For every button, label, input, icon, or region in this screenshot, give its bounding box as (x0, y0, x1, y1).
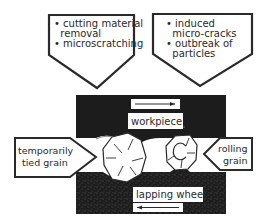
callout-rolling-grain: rolling grain (204, 138, 252, 170)
lapping-wheel-label: lapping wheel (136, 189, 206, 200)
lapping-wheel: lapping wheel (76, 168, 226, 215)
lapping-mechanism-diagram: • cutting material removal • microscratc… (0, 0, 268, 223)
callout-cutting-mechanisms: • cutting material removal • microscratc… (49, 15, 143, 88)
tied-grain-label-line-1: temporarily (18, 145, 74, 156)
workpiece-label: workpiece (131, 116, 182, 127)
callout-left-line-3: • microscratching (54, 38, 143, 49)
rolling-grain-label-line-1: rolling (218, 143, 247, 154)
rolling-grain (166, 135, 197, 170)
tied-grain-label-line-2: tied grain (22, 157, 68, 168)
tied-grain (103, 133, 146, 182)
workpiece: workpiece (76, 95, 226, 143)
callout-right-line-4: particles (166, 48, 215, 59)
rolling-grain-label-line-2: grain (223, 155, 247, 166)
callout-tied-grain: temporarily tied grain (15, 138, 96, 177)
callout-fracture-mechanisms: • induced micro-cracks • outbreak of par… (153, 14, 252, 86)
